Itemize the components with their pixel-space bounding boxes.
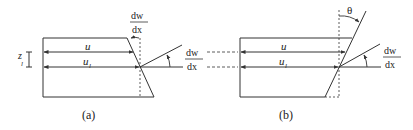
- label-right-slope-den-a: dx: [187, 61, 197, 72]
- label-right-slope-num-b: dw: [384, 45, 397, 56]
- theta-arc-b: [339, 16, 359, 22]
- label-right-slope-num-a: dw: [186, 47, 199, 58]
- caption-b: (b): [279, 108, 293, 122]
- beam-deformation-diagram: u u l z l dw dx dw dx (a): [0, 0, 413, 130]
- label-zl-sub-a: l: [21, 60, 23, 68]
- panel-a: u u l z l dw dx dw dx (a): [17, 10, 203, 122]
- label-right-slope-den-b: dx: [385, 59, 395, 70]
- panel-b: u u l θ dw dx (b): [207, 4, 401, 122]
- caption-a: (a): [82, 108, 95, 122]
- label-top-slope-den-a: dx: [132, 24, 142, 35]
- label-ul-sub-a: l: [89, 62, 91, 70]
- label-theta-b: θ: [347, 4, 352, 16]
- slope-line-a: [140, 45, 182, 67]
- top-angle-arc-a: [131, 37, 139, 38]
- label-ul-sub-b: l: [285, 62, 287, 70]
- label-u-b: u: [281, 40, 287, 52]
- rotated-face-b: [325, 11, 366, 97]
- slope-angle-arc-a: [167, 55, 170, 67]
- label-top-slope-num-a: dw: [131, 10, 144, 21]
- slope-angle-arc-b: [364, 55, 367, 67]
- label-u-a: u: [85, 40, 91, 52]
